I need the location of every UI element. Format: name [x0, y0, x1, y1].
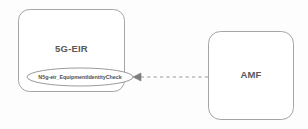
diagram-canvas: 5G-EIR AMF N5g-eir_EquipmentIdentityChec…	[0, 0, 308, 129]
diagram-vector-layer	[0, 0, 308, 129]
service-ellipse-label: N5g-eir_EquipmentIdentityCheck	[27, 74, 133, 80]
connector-arrowhead-icon	[133, 73, 141, 81]
node-amf-label: AMF	[208, 69, 294, 80]
node-5g-eir-label: 5G-EIR	[18, 43, 125, 54]
